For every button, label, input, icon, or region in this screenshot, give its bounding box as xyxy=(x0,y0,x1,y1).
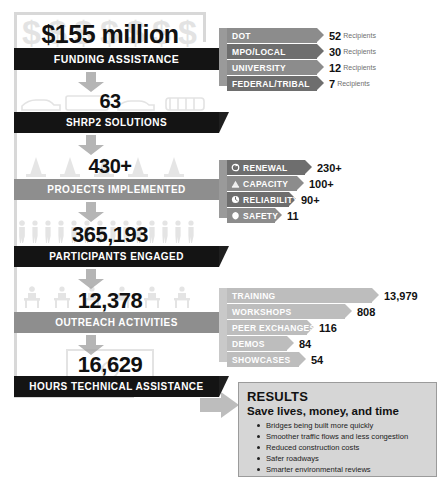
results-arrow-head xyxy=(221,392,239,418)
callout-university-unit: Recipients xyxy=(343,64,376,71)
callout-mpo-count: 30 xyxy=(329,46,341,58)
stage-bar-projects: PROJECTS IMPLEMENTED xyxy=(14,179,219,200)
callout-workshops-count: 808 xyxy=(357,306,375,318)
stage-bar-solutions-fold xyxy=(219,112,229,133)
results-title: RESULTS xyxy=(247,389,436,404)
stage-label-funding: FUNDING ASSISTANCE xyxy=(54,53,179,65)
results-arrow-stem xyxy=(200,398,222,412)
callout-peer-exchanges-count: 116 xyxy=(319,322,337,334)
infographic-canvas: $$ $$ $$ $ $155 million FUNDING ASSISTAN… xyxy=(0,0,443,482)
stage-value-participants: 365,193 xyxy=(17,222,203,248)
callout-renewal: RENEWAL 230+ xyxy=(227,160,342,175)
stage-label-hours: HOURS TECHNICAL ASSISTANCE xyxy=(29,381,203,392)
renewal-icon xyxy=(231,163,240,172)
callout-showcases: SHOWCASES 54 xyxy=(227,352,323,367)
results-list: Bridges being built more quickly Smoothe… xyxy=(253,420,436,475)
callout-mpo: MPO/LOCAL 30 Recipients xyxy=(227,44,376,59)
callout-university-label: UNIVERSITY xyxy=(227,63,286,73)
callout-showcases-label: SHOWCASES xyxy=(227,355,290,365)
callout-demos: DEMOS 84 xyxy=(227,336,311,351)
stage-value-solutions: 63 xyxy=(17,90,203,113)
callout-federal: FEDERAL/TRIBAL 7 Recipients xyxy=(227,76,370,91)
reliability-icon xyxy=(231,195,240,204)
stage-value-projects: 430+ xyxy=(17,155,203,178)
stage-bar-participants-fold xyxy=(219,246,229,267)
callout-safety: SAFETY 11 xyxy=(227,208,299,223)
callout-dot-unit: Recipients xyxy=(343,32,376,39)
stage-label-outreach: OUTREACH ACTIVITIES xyxy=(55,317,178,328)
callout-dot: DOT 52 Recipients xyxy=(227,28,376,43)
callout-reliability-count: 90+ xyxy=(301,194,320,206)
stage-value-outreach: 12,378 xyxy=(17,288,203,314)
callout-reliability-label: RELIABILITY xyxy=(240,195,299,205)
callout-training-count: 13,979 xyxy=(384,290,418,302)
callout-peer-exchanges: PEER EXCHANGES 116 xyxy=(227,320,337,335)
callout-peer-exchanges-label: PEER EXCHANGES xyxy=(227,323,316,333)
callout-capacity-count: 100+ xyxy=(309,178,334,190)
callout-federal-count: 7 xyxy=(329,78,335,90)
results-subtitle: Save lives, money, and time xyxy=(247,405,436,417)
callout-federal-unit: Recipients xyxy=(337,80,370,87)
outreach-connector xyxy=(219,288,227,362)
stage-value-funding: $155 million xyxy=(17,20,203,49)
stage-bar-hours: HOURS TECHNICAL ASSISTANCE xyxy=(14,376,219,397)
solutions-connector xyxy=(219,160,227,218)
callout-dot-label: DOT xyxy=(227,31,251,41)
callout-capacity: CAPACITY 100+ xyxy=(227,176,334,191)
results-item: Bridges being built more quickly xyxy=(253,420,436,431)
results-item: Smarter environmental reviews xyxy=(253,464,436,475)
stage-bar-participants: PARTICIPANTS ENGAGED xyxy=(14,246,219,267)
callout-safety-count: 11 xyxy=(287,210,299,222)
stage-bar-funding: FUNDING ASSISTANCE xyxy=(14,48,219,70)
callout-reliability: RELIABILITY 90+ xyxy=(227,192,320,207)
results-item: Safer roadways xyxy=(253,453,436,464)
stage-bar-solutions: SHRP2 SOLUTIONS xyxy=(14,112,219,133)
callout-capacity-label: CAPACITY xyxy=(240,179,288,189)
callout-demos-count: 84 xyxy=(299,338,311,350)
spine-vertical-right xyxy=(203,12,206,42)
callout-demos-label: DEMOS xyxy=(227,339,265,349)
callout-safety-label: SAFETY xyxy=(240,211,278,221)
callout-university-count: 12 xyxy=(329,62,341,74)
safety-icon xyxy=(231,211,240,220)
funding-connector xyxy=(219,28,227,86)
callout-university: UNIVERSITY 12 Recipients xyxy=(227,60,376,75)
callout-training-label: TRAINING xyxy=(227,291,275,301)
stage-label-participants: PARTICIPANTS ENGAGED xyxy=(49,251,184,262)
callout-renewal-label: RENEWAL xyxy=(240,163,288,173)
callout-showcases-count: 54 xyxy=(311,354,323,366)
callout-dot-count: 52 xyxy=(329,30,341,42)
stage-value-hours: 16,629 xyxy=(17,352,203,378)
stage-label-solutions: SHRP2 SOLUTIONS xyxy=(66,117,167,128)
callout-workshops: WORKSHOPS 808 xyxy=(227,304,375,319)
capacity-icon xyxy=(231,179,240,188)
stage-bar-outreach: OUTREACH ACTIVITIES xyxy=(14,312,219,333)
callout-federal-label: FEDERAL/TRIBAL xyxy=(227,79,310,89)
callout-workshops-label: WORKSHOPS xyxy=(227,307,291,317)
stage-label-projects: PROJECTS IMPLEMENTED xyxy=(47,184,185,195)
callout-renewal-count: 230+ xyxy=(317,162,342,174)
callout-mpo-unit: Recipients xyxy=(343,48,376,55)
results-item: Reduced construction costs xyxy=(253,442,436,453)
results-item: Smoother traffic flows and less congesti… xyxy=(253,431,436,442)
callout-mpo-label: MPO/LOCAL xyxy=(227,47,286,57)
results-panel: RESULTS Save lives, money, and time Brid… xyxy=(238,382,437,477)
callout-training: TRAINING 13,979 xyxy=(227,288,418,303)
